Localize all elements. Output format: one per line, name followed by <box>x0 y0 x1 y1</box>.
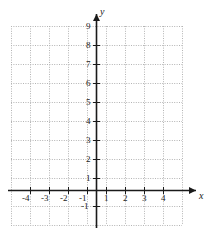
x-tick-label-2: 2 <box>123 194 128 203</box>
x-tick-label-1: 1 <box>104 194 109 203</box>
y-axis-label: y <box>100 7 104 17</box>
x-tick-label-3: 3 <box>142 194 147 203</box>
y-tick-label-5: 5 <box>86 98 91 107</box>
y-tick-label-6: 6 <box>86 79 91 88</box>
x-tick-label--3: -3 <box>41 194 49 203</box>
y-tick-label-2: 2 <box>86 155 91 164</box>
y-tick-label-1: 1 <box>86 174 91 183</box>
y-tick-label-4: 4 <box>86 117 91 126</box>
y-tick-label-8: 8 <box>86 41 91 50</box>
x-axis-label: x <box>199 191 203 201</box>
x-tick-label--2: -2 <box>60 194 68 203</box>
x-tick-label--4: -4 <box>22 194 30 203</box>
y-tick-label-7: 7 <box>86 60 91 69</box>
y-tick-label--1: -1 <box>81 202 89 211</box>
x-tick-label-4: 4 <box>161 194 166 203</box>
y-tick-label-9: 9 <box>86 22 91 31</box>
y-tick-label-3: 3 <box>86 136 91 145</box>
